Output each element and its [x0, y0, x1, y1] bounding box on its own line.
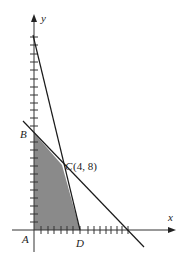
- point-label-a: A: [21, 233, 29, 245]
- linear-programming-diagram: y x A B C (4, 8) D: [0, 0, 184, 269]
- point-label-d: D: [75, 237, 84, 249]
- point-label-b: B: [20, 128, 27, 140]
- feasible-region: [34, 133, 80, 230]
- point-c-coords: (4, 8): [73, 160, 97, 173]
- point-label-c: C: [65, 160, 73, 172]
- x-axis-label: x: [167, 211, 173, 223]
- y-axis-arrow-icon: [31, 14, 37, 22]
- x-axis-arrow-icon: [168, 227, 176, 233]
- y-axis-label: y: [40, 12, 46, 24]
